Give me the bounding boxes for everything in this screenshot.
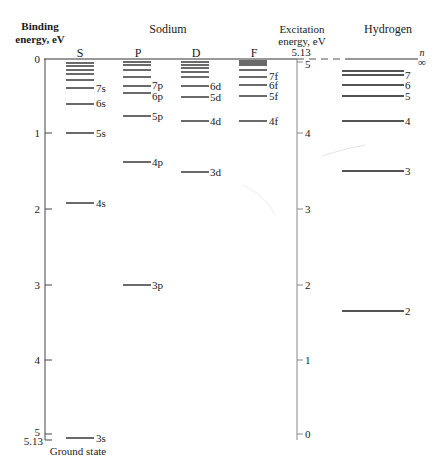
- d-levels: [181, 62, 209, 172]
- level-7s: 7s: [96, 82, 106, 94]
- level-3s: 3s: [96, 432, 106, 444]
- column-s: S: [77, 46, 84, 60]
- left-tick-5-13: 5.13: [24, 435, 44, 447]
- energy-level-diagram: Binding energy, eV Sodium Excitation ene…: [0, 0, 445, 471]
- hydrogen-title: Hydrogen: [364, 22, 412, 36]
- scan-artifact: [243, 185, 275, 215]
- level-4p: 4p: [152, 156, 164, 168]
- level-6s: 6s: [96, 97, 106, 109]
- hydrogen-n2: 2: [405, 305, 411, 317]
- infinity-label: ∞: [418, 56, 426, 68]
- right-axis-top-value: 5.13: [291, 46, 311, 58]
- scan-artifact: [322, 145, 365, 156]
- right-axis-ticks: [297, 62, 303, 434]
- level-6p: 6p: [152, 90, 164, 102]
- level-3p: 3p: [152, 279, 164, 291]
- level-3d: 3d: [210, 166, 222, 178]
- column-p: P: [135, 46, 142, 60]
- f-levels: [239, 61, 267, 121]
- left-tick-1: 1: [35, 127, 41, 139]
- left-tick-0: 0: [35, 53, 41, 65]
- hydrogen-n4: 4: [405, 115, 411, 127]
- hydrogen-n5: 5: [405, 90, 411, 102]
- column-d: D: [192, 46, 201, 60]
- hydrogen-levels: [342, 71, 404, 311]
- right-tick-3: 3: [305, 203, 311, 215]
- right-tick-5: 5: [305, 58, 311, 70]
- right-tick-1: 1: [305, 354, 311, 366]
- left-axis-ticks: [45, 133, 52, 440]
- left-tick-2: 2: [35, 203, 41, 215]
- left-axis-title-line1: Binding: [21, 20, 59, 32]
- level-4d: 4d: [210, 115, 222, 127]
- right-tick-4: 4: [305, 127, 311, 139]
- level-5p: 5p: [152, 110, 164, 122]
- left-axis-title-line2: energy, eV: [15, 33, 65, 45]
- level-5s: 5s: [96, 127, 106, 139]
- left-tick-4: 4: [35, 354, 41, 366]
- level-4f: 4f: [269, 115, 279, 127]
- level-5f: 5f: [269, 90, 279, 102]
- right-tick-0: 0: [305, 428, 311, 440]
- sodium-title: Sodium: [149, 22, 187, 36]
- column-f: F: [251, 46, 258, 60]
- right-axis-title-line1: Excitation: [279, 23, 325, 35]
- level-4s: 4s: [96, 197, 106, 209]
- right-tick-2: 2: [305, 279, 311, 291]
- p-levels: [123, 62, 151, 285]
- level-5d: 5d: [210, 91, 222, 103]
- hydrogen-n3: 3: [405, 165, 411, 177]
- left-tick-3: 3: [35, 279, 41, 291]
- s-levels: [66, 63, 94, 438]
- ground-state-label: Ground state: [50, 445, 107, 457]
